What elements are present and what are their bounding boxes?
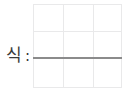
worksheet-answer-field: 식 : (0, 0, 129, 95)
grid-line-horizontal (33, 4, 122, 5)
expression-label: 식 : (6, 42, 30, 68)
grid-line-vertical (33, 4, 34, 88)
answer-write-line[interactable] (33, 57, 122, 59)
grid-line-horizontal (33, 31, 122, 32)
grid-line-vertical (93, 4, 94, 88)
grid-paper (33, 4, 122, 88)
grid-line-vertical (121, 4, 122, 88)
grid-line-vertical (63, 4, 64, 88)
expression-label-text: 식 (6, 47, 22, 64)
grid-line-horizontal (33, 87, 122, 88)
expression-label-colon: : (25, 49, 30, 64)
